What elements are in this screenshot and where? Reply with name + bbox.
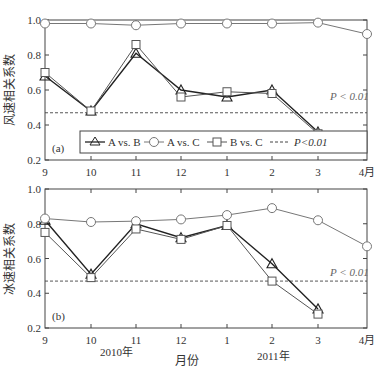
x-tick-label: 12 (176, 166, 187, 178)
square-marker-icon (223, 88, 231, 96)
year-label-2011: 2011年 (257, 349, 290, 362)
square-marker-icon (41, 228, 49, 236)
legend-label-b-vs-c: B vs. C (230, 136, 263, 148)
circle-marker-icon (87, 218, 96, 227)
circle-marker-icon (314, 18, 323, 27)
legend-label-a-vs-b: A vs. B (108, 136, 141, 148)
threshold-annotation-a: P < 0.01 (329, 90, 369, 102)
x-tick-label: 9 (42, 166, 48, 178)
x-tick-label: 1 (224, 166, 230, 178)
y-tick-label: 1.0 (27, 14, 41, 26)
legend-item-b-vs-c: B vs. C (207, 136, 263, 148)
square-marker-icon (213, 138, 221, 146)
y-tick-label: 0.8 (27, 218, 41, 230)
plot-frame (45, 189, 367, 328)
square-marker-icon (177, 93, 185, 101)
square-marker-icon (268, 277, 276, 285)
x-axis-title: 月份 (175, 354, 199, 368)
circle-marker-icon (41, 19, 50, 28)
circle-marker-icon (314, 216, 323, 225)
y-tick-label: 0.8 (27, 49, 41, 61)
circle-marker-icon (363, 242, 372, 251)
panel-label-a: (a) (52, 142, 65, 155)
square-marker-icon (132, 225, 140, 233)
circle-marker-icon (150, 138, 159, 147)
circle-marker-icon (223, 19, 232, 28)
figure: 0.20.40.60.81.091011121234月 0.20.40.60.8… (0, 0, 386, 380)
y-tick-label: 0.6 (27, 253, 41, 265)
square-marker-icon (87, 107, 95, 115)
legend: A vs. B A vs. C B vs. C P<0.01 (80, 131, 367, 153)
square-marker-icon (268, 90, 276, 98)
circle-marker-icon (132, 21, 141, 30)
panel-b-ice-correlation: 0.20.40.60.81.091011121234月 (27, 183, 375, 346)
circle-marker-icon (87, 19, 96, 28)
circle-marker-icon (132, 217, 141, 226)
circle-marker-icon (223, 211, 232, 220)
square-marker-icon (87, 274, 95, 282)
y-tick-label: 0.2 (27, 322, 41, 334)
circle-marker-icon (41, 214, 50, 223)
x-tick-label: 1 (224, 334, 230, 346)
x-tick-label: 3 (315, 166, 321, 178)
y-tick-label: 0.4 (27, 119, 41, 131)
y-axis-title-b: 冰速相关系数 (2, 223, 17, 295)
x-tick-label: 9 (42, 334, 48, 346)
legend-label-a-vs-c: A vs. C (167, 136, 200, 148)
x-tick-label: 3 (315, 334, 321, 346)
y-tick-label: 0.2 (27, 154, 41, 166)
y-tick-label: 0.6 (27, 84, 41, 96)
series-line-bvsc (45, 45, 318, 134)
x-tick-label: 4月 (359, 166, 376, 178)
series-line-avsc (45, 208, 367, 246)
year-label-2010: 2010年 (100, 345, 133, 358)
y-axis-title-a: 风速相关系数 (2, 54, 17, 126)
circle-marker-icon (268, 19, 277, 28)
y-tick-label: 1.0 (27, 183, 41, 195)
x-tick-label: 11 (131, 334, 142, 346)
x-tick-label: 10 (86, 166, 98, 178)
circle-marker-icon (363, 30, 372, 39)
legend-item-a-vs-c: A vs. C (144, 136, 200, 148)
y-tick-label: 0.4 (27, 287, 41, 299)
square-marker-icon (41, 69, 49, 77)
threshold-annotation-b: P < 0.01 (329, 266, 369, 278)
legend-label-threshold: P<0.01 (293, 136, 327, 148)
square-marker-icon (132, 41, 140, 49)
x-tick-label: 10 (86, 334, 98, 346)
square-marker-icon (314, 310, 322, 318)
circle-marker-icon (177, 19, 186, 28)
circle-marker-icon (177, 215, 186, 224)
x-tick-label: 12 (176, 334, 187, 346)
x-tick-label: 11 (131, 166, 142, 178)
x-tick-label: 4月 (359, 334, 376, 346)
circle-marker-icon (268, 204, 277, 213)
square-marker-icon (223, 221, 231, 229)
x-tick-label: 2 (269, 166, 275, 178)
square-marker-icon (177, 235, 185, 243)
panel-label-b: (b) (52, 310, 65, 323)
x-tick-label: 2 (269, 334, 275, 346)
